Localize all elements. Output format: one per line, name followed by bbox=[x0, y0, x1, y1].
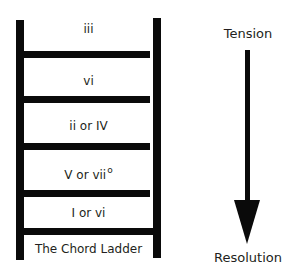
ladder-rung bbox=[24, 143, 150, 150]
ladder-rung bbox=[24, 228, 153, 235]
ladder-title: The Chord Ladder bbox=[24, 242, 153, 256]
ladder-rung bbox=[24, 96, 150, 103]
chord-text: V or vii bbox=[64, 168, 106, 182]
chord-text: vi bbox=[83, 74, 93, 88]
chord-label-ii-or-iv: ii or IV bbox=[24, 119, 153, 133]
chord-label-iii: iii bbox=[24, 22, 153, 36]
chord-text: iii bbox=[83, 22, 93, 36]
chord-label-v-or-vii-dim: V or viio bbox=[24, 168, 153, 183]
chord-text: I or vi bbox=[72, 206, 106, 220]
tension-label: Tension bbox=[208, 26, 288, 41]
resolution-label: Resolution bbox=[208, 250, 288, 265]
chord-label-vi: vi bbox=[24, 74, 153, 88]
ladder-rung bbox=[24, 51, 150, 58]
ladder-left-rail bbox=[16, 20, 24, 260]
chord-text: ii or IV bbox=[69, 119, 107, 133]
chord-label-i-or-vi: I or vi bbox=[24, 206, 153, 220]
title-text: The Chord Ladder bbox=[35, 242, 142, 256]
down-arrow-icon bbox=[228, 48, 268, 248]
ladder-right-rail bbox=[153, 18, 161, 258]
diminished-symbol: o bbox=[107, 165, 113, 175]
ladder-rung bbox=[24, 190, 150, 197]
